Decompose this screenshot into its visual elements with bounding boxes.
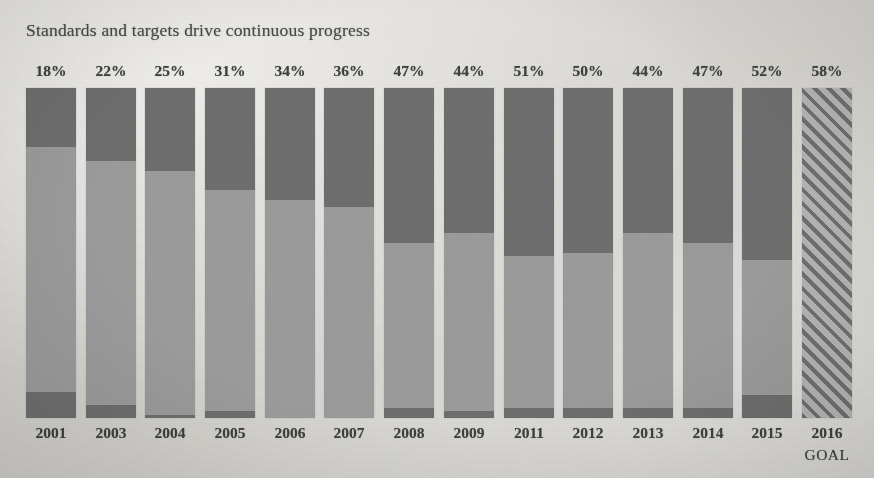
bar-category-label: 2013 xyxy=(619,424,677,442)
bar-category-label: 2009 xyxy=(440,424,498,442)
bar-segment-middle xyxy=(444,233,494,411)
bar-category-label: 2003 xyxy=(82,424,140,442)
bar-value-label: 34% xyxy=(265,60,315,82)
bar-value-label: 22% xyxy=(86,60,136,82)
bar-stack xyxy=(384,88,434,418)
bar-column: 31%2005 xyxy=(205,60,255,460)
bar-segment-bottom xyxy=(205,411,255,418)
bar-value-label: 25% xyxy=(145,60,195,82)
bar-category-label: 2015 xyxy=(738,424,796,442)
bar-segment-top xyxy=(205,88,255,190)
bar-value-label: 58% xyxy=(802,60,852,82)
bar-stack xyxy=(444,88,494,418)
bar-segment-top xyxy=(384,88,434,243)
bar-segment-top xyxy=(742,88,792,260)
bar-category-label: 2011 xyxy=(500,424,558,442)
bar-column: 18%2001 xyxy=(26,60,76,460)
bar-segment-top xyxy=(563,88,613,253)
bar-column: 34%2006 xyxy=(265,60,315,460)
bar-segment-middle xyxy=(265,200,315,418)
bar-stack xyxy=(504,88,554,418)
bar-column: 52%2015 xyxy=(742,60,792,460)
bar-segment-bottom xyxy=(145,415,195,418)
bar-category-label: 2001 xyxy=(22,424,80,442)
bar-stack xyxy=(563,88,613,418)
bar-column: 44%2009 xyxy=(444,60,494,460)
bar-segment-middle xyxy=(504,256,554,408)
bar-segment-top xyxy=(683,88,733,243)
bar-category-label: 2006 xyxy=(261,424,319,442)
bar-category-label: 2012 xyxy=(559,424,617,442)
bar-value-label: 52% xyxy=(742,60,792,82)
bar-value-label: 51% xyxy=(504,60,554,82)
bar-segment-middle xyxy=(86,161,136,405)
bar-segment-top xyxy=(324,88,374,207)
bar-segment-top xyxy=(623,88,673,233)
bar-segment-top xyxy=(145,88,195,171)
bar-value-label: 47% xyxy=(384,60,434,82)
bar-segment-top xyxy=(504,88,554,256)
bar-value-label: 50% xyxy=(563,60,613,82)
bar-stack xyxy=(145,88,195,418)
bar-segment-bottom xyxy=(742,395,792,418)
bar-segment-top xyxy=(26,88,76,147)
bar-column: 36%2007 xyxy=(324,60,374,460)
bar-segment-top xyxy=(265,88,315,200)
bar-column: 25%2004 xyxy=(145,60,195,460)
bar-category-label: 2014 xyxy=(679,424,737,442)
bar-value-label: 47% xyxy=(683,60,733,82)
bar-value-label: 31% xyxy=(205,60,255,82)
bar-segment-middle xyxy=(742,260,792,395)
bar-value-label: 36% xyxy=(324,60,374,82)
bar-segment-bottom xyxy=(683,408,733,418)
bar-stack xyxy=(623,88,673,418)
bar-segment-goal-hatched xyxy=(802,88,852,418)
chart-container: Standards and targets drive continuous p… xyxy=(0,0,874,478)
bar-segment-middle xyxy=(683,243,733,408)
bar-segment-bottom xyxy=(384,408,434,418)
bar-category-label: 2004 xyxy=(141,424,199,442)
bar-stack xyxy=(802,88,852,418)
bar-segment-middle xyxy=(145,171,195,415)
bar-value-label: 44% xyxy=(623,60,673,82)
bar-segment-middle xyxy=(205,190,255,411)
bar-column: 22%2003 xyxy=(86,60,136,460)
bar-segment-bottom xyxy=(444,411,494,418)
bar-column: 47%2014 xyxy=(683,60,733,460)
bar-stack xyxy=(742,88,792,418)
bar-segment-middle xyxy=(324,207,374,418)
bar-value-label: 44% xyxy=(444,60,494,82)
bar-segment-bottom xyxy=(504,408,554,418)
bar-segment-middle xyxy=(384,243,434,408)
bar-segment-middle xyxy=(563,253,613,408)
plot-area: 18%200122%200325%200431%200534%200636%20… xyxy=(26,60,852,460)
bar-segment-bottom xyxy=(26,392,76,418)
bar-column: 44%2013 xyxy=(623,60,673,460)
bar-column: 47%2008 xyxy=(384,60,434,460)
bar-category-label: 2005 xyxy=(201,424,259,442)
chart-title: Standards and targets drive continuous p… xyxy=(26,20,370,41)
bar-stack xyxy=(265,88,315,418)
bar-value-label: 18% xyxy=(26,60,76,82)
bar-stack xyxy=(86,88,136,418)
bar-segment-bottom xyxy=(623,408,673,418)
bar-category-label: 2016 xyxy=(798,424,856,442)
bar-stack xyxy=(205,88,255,418)
bar-sublabel-goal: GOAL xyxy=(798,446,856,464)
bar-column: 58%2016GOAL xyxy=(802,60,852,460)
bar-stack xyxy=(26,88,76,418)
bar-stack xyxy=(683,88,733,418)
bar-segment-top xyxy=(86,88,136,161)
bar-stack xyxy=(324,88,374,418)
bar-category-label: 2007 xyxy=(320,424,378,442)
bar-column: 51%2011 xyxy=(504,60,554,460)
bar-category-label: 2008 xyxy=(380,424,438,442)
bar-segment-bottom xyxy=(563,408,613,418)
bar-segment-bottom xyxy=(86,405,136,418)
bar-segment-top xyxy=(444,88,494,233)
bar-column: 50%2012 xyxy=(563,60,613,460)
bar-segment-middle xyxy=(26,147,76,391)
bar-segment-middle xyxy=(623,233,673,408)
